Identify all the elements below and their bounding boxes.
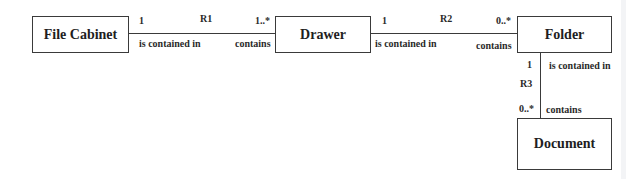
entity-label: Document: [534, 136, 595, 152]
page-edge-strip: [621, 0, 626, 179]
entity-drawer[interactable]: Drawer: [275, 16, 371, 53]
r1-to-multiplicity: 1..*: [255, 15, 270, 26]
r2-name: R2: [440, 13, 452, 24]
r1-to-role: contains: [235, 38, 271, 49]
entity-document[interactable]: Document: [517, 118, 612, 170]
association-line-r2[interactable]: [371, 33, 517, 34]
r2-from-role: is contained in: [375, 38, 437, 49]
entity-label: Folder: [545, 27, 585, 43]
r2-to-role: contains: [476, 40, 512, 51]
r1-from-role: is contained in: [139, 38, 201, 49]
r3-name: R3: [520, 78, 532, 89]
entity-label: Drawer: [300, 27, 346, 43]
r3-from-multiplicity: 1: [527, 59, 532, 70]
entity-file-cabinet[interactable]: File Cabinet: [32, 16, 129, 53]
entity-folder[interactable]: Folder: [517, 16, 612, 53]
r2-to-multiplicity: 0..*: [496, 15, 511, 26]
association-line-r1[interactable]: [129, 33, 275, 34]
entity-label: File Cabinet: [44, 27, 118, 43]
r1-name: R1: [200, 13, 212, 24]
r3-to-multiplicity: 0..*: [519, 103, 534, 114]
r2-from-multiplicity: 1: [382, 15, 387, 26]
r3-to-role: contains: [546, 104, 582, 115]
r3-from-role: is contained in: [549, 60, 611, 71]
r1-from-multiplicity: 1: [139, 15, 144, 26]
association-line-r3[interactable]: [540, 53, 541, 118]
